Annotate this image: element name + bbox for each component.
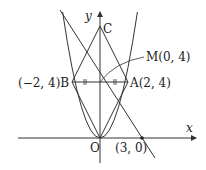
y-axis-label: y: [84, 9, 92, 23]
origin-label: O: [90, 141, 100, 155]
diagram-canvas: y x O C (−2, 4)B A(2, 4) M(0, 4) (3, 0): [0, 0, 206, 170]
point-3-0-label: (3, 0): [115, 141, 147, 155]
point-A-label: A(2, 4): [129, 76, 171, 90]
point-3-0: [140, 136, 144, 140]
point-C-label: C: [103, 22, 112, 36]
point-B-label: (−2, 4)B: [18, 76, 69, 90]
point-M-label: M(0, 4): [146, 50, 191, 64]
x-axis-label: x: [186, 121, 193, 135]
coordinate-diagram: y x O C (−2, 4)B A(2, 4) M(0, 4) (3, 0): [0, 0, 206, 170]
